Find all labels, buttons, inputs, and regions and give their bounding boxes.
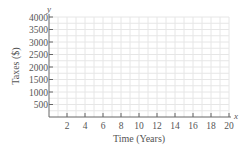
x-tick-label: 16 [188,121,198,131]
y-tick-label: 2500 [29,50,48,60]
x-tick-label: 2 [65,121,70,131]
x-tick-label: 12 [152,121,162,131]
x-axis-title: Time (Years) [113,133,165,145]
chart: 2468101214161820500100015002000250030003… [0,0,250,155]
x-tick-label: 18 [206,121,216,131]
y-tick-label: 1500 [29,75,48,85]
y-tick-label: 3500 [29,25,48,35]
x-axis-variable: x [233,111,238,121]
grid [49,17,229,117]
x-tick-label: 20 [224,121,234,131]
x-tick-label: 8 [119,121,124,131]
tick-labels: 2468101214161820500100015002000250030003… [29,13,234,132]
y-axis-title: Taxes ($) [10,47,22,84]
y-axis-variable: y [46,4,51,14]
x-tick-label: 6 [101,121,106,131]
y-tick-label: 1000 [29,88,48,98]
x-tick-label: 4 [83,121,88,131]
y-tick-label: 2000 [29,63,48,73]
y-tick-label: 4000 [29,13,48,23]
x-tick-label: 14 [170,121,180,131]
y-tick-label: 3000 [29,38,48,48]
x-tick-label: 10 [134,121,144,131]
y-tick-label: 500 [34,100,49,110]
